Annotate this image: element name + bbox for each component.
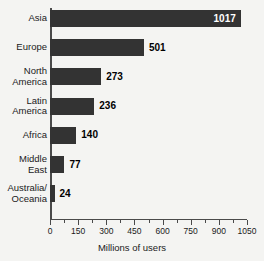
bar-value-label: 77 [69, 160, 80, 170]
bar [50, 127, 76, 144]
x-tick-label: 0 [48, 226, 53, 236]
x-tick-major [134, 220, 135, 225]
bar-chart: 10175012732361407724 AsiaEuropeNorth Ame… [0, 0, 264, 261]
bar-value-label: 501 [149, 43, 166, 53]
bar-row: 1017 [50, 10, 247, 27]
bar [50, 10, 241, 27]
bar-row: 236 [50, 98, 247, 115]
bar-value-label: 24 [60, 189, 71, 199]
bar-value-label: 140 [81, 130, 98, 140]
x-tick-major [106, 220, 107, 225]
category-label: Australia/ Oceania [0, 183, 47, 204]
bar-row: 77 [50, 156, 247, 173]
bar-row: 501 [50, 39, 247, 56]
bar [50, 185, 55, 202]
bar [50, 68, 101, 85]
x-tick-minor [120, 220, 121, 223]
x-tick-label: 750 [184, 226, 198, 236]
x-tick-label: 900 [212, 226, 226, 236]
x-tick-minor [149, 220, 150, 223]
bar-value-label: 236 [99, 101, 116, 111]
x-tick-major [78, 220, 79, 225]
x-tick-major [191, 220, 192, 225]
x-tick-label: 450 [127, 226, 141, 236]
x-tick-minor [177, 220, 178, 223]
x-tick-minor [205, 220, 206, 223]
category-label: Europe [0, 42, 47, 53]
x-tick-label: 600 [155, 226, 169, 236]
bar [50, 98, 94, 115]
x-tick-major [163, 220, 164, 225]
bar-row: 273 [50, 68, 247, 85]
x-tick-minor [92, 220, 93, 223]
x-tick-minor [233, 220, 234, 223]
category-label: Asia [0, 13, 47, 24]
category-label: North America [0, 66, 47, 87]
bar-row: 24 [50, 185, 247, 202]
x-axis-title: Millions of users [0, 242, 264, 253]
x-tick-major [247, 220, 248, 225]
x-tick-major [219, 220, 220, 225]
bar-value-label: 1017 [214, 14, 236, 24]
bar-value-label: 273 [106, 72, 123, 82]
category-label: Middle East [0, 154, 47, 175]
category-label: Africa [0, 130, 47, 141]
x-tick-major [50, 220, 51, 225]
bar [50, 39, 144, 56]
x-tick-label: 1050 [238, 226, 257, 236]
x-tick-label: 300 [99, 226, 113, 236]
bar-row: 140 [50, 127, 247, 144]
x-tick-label: 150 [71, 226, 85, 236]
x-tick-minor [64, 220, 65, 223]
category-label: Latin America [0, 96, 47, 117]
bar [50, 156, 64, 173]
